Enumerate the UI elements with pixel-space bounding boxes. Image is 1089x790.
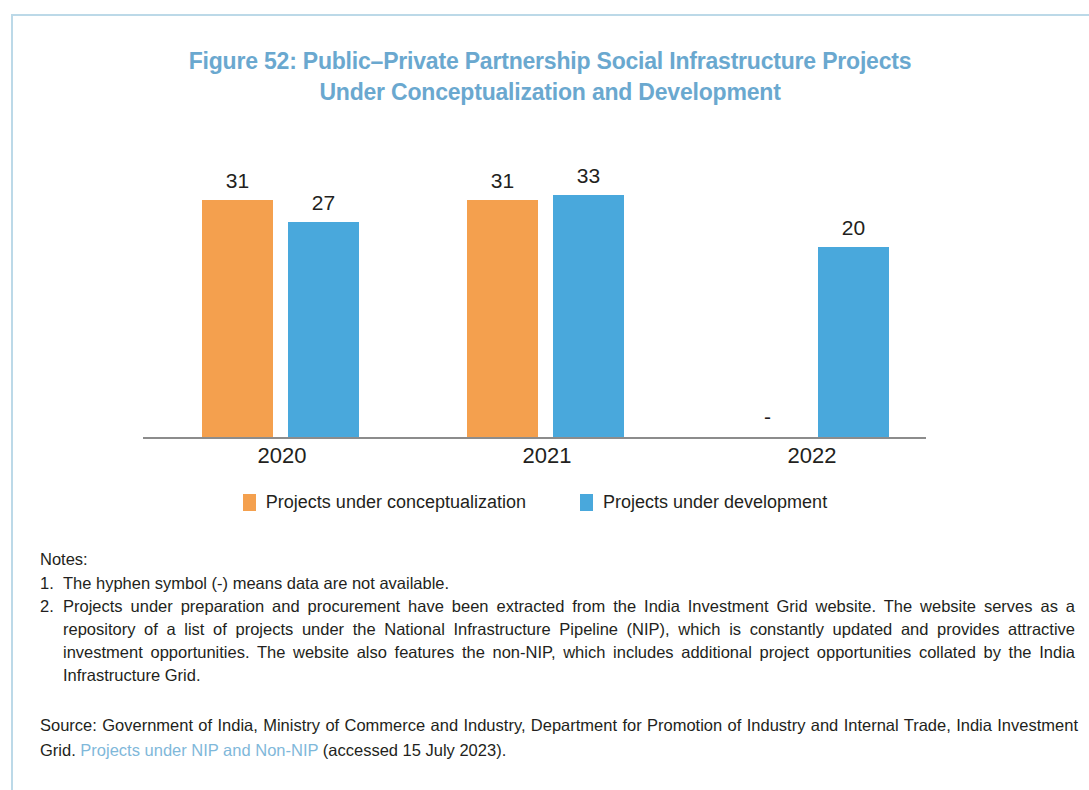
legend-swatch-blue-icon — [580, 494, 593, 511]
bar-value-2021-conceptualization: 31 — [467, 169, 538, 193]
note-item-2: 2. Projects under preparation and procur… — [40, 595, 1075, 687]
category-label-2020: 2020 — [202, 443, 362, 469]
notes-block: Notes: 1. The hyphen symbol (-) means da… — [40, 548, 1075, 687]
bar-2020-conceptualization[interactable] — [202, 200, 273, 437]
bar-value-2020-conceptualization: 31 — [202, 169, 273, 193]
bar-2021-conceptualization[interactable] — [467, 200, 538, 437]
bar-value-2022-development: 20 — [818, 216, 889, 240]
note-text-1: The hyphen symbol (-) means data are not… — [63, 572, 1075, 595]
chart-legend: Projects under conceptualization Project… — [140, 492, 930, 513]
bar-2020-development[interactable] — [288, 222, 359, 437]
bar-value-2020-development: 27 — [288, 191, 359, 215]
bar-value-2022-conceptualization-na: - — [732, 405, 803, 429]
legend-label-development: Projects under development — [603, 492, 827, 513]
source-block: Source: Government of India, Ministry of… — [40, 713, 1078, 763]
category-label-2021: 2021 — [467, 443, 627, 469]
category-label-2022: 2022 — [732, 443, 892, 469]
legend-label-conceptualization: Projects under conceptualization — [266, 492, 526, 513]
source-link[interactable]: Projects under NIP and Non-NIP — [80, 741, 318, 759]
figure-title-line-2: Under Conceptualization and Development — [11, 77, 1089, 108]
page-border-left — [11, 14, 13, 790]
figure-page: Figure 52: Public–Private Partnership So… — [0, 0, 1089, 790]
bar-2022-development[interactable] — [818, 247, 889, 437]
note-number-1: 1. — [40, 572, 63, 595]
x-axis-line — [143, 437, 926, 439]
note-number-2: 2. — [40, 595, 63, 618]
source-suffix: (accessed 15 July 2023). — [318, 741, 506, 759]
legend-item-development[interactable]: Projects under development — [580, 492, 827, 513]
bar-group-2020: 31 27 — [180, 140, 395, 437]
bar-group-2021: 31 33 — [445, 140, 660, 437]
bar-chart: 31 27 2020 31 33 2021 - 20 2022 — [140, 140, 930, 480]
bar-group-2022: - 20 — [710, 140, 925, 437]
figure-title: Figure 52: Public–Private Partnership So… — [11, 46, 1089, 108]
note-text-2: Projects under preparation and procureme… — [63, 595, 1075, 687]
legend-swatch-orange-icon — [243, 494, 256, 511]
legend-item-conceptualization[interactable]: Projects under conceptualization — [243, 492, 526, 513]
notes-heading: Notes: — [40, 548, 1075, 571]
bar-2021-development[interactable] — [553, 195, 624, 437]
figure-title-line-1: Figure 52: Public–Private Partnership So… — [189, 48, 912, 74]
bar-value-2021-development: 33 — [553, 164, 624, 188]
note-item-1: 1. The hyphen symbol (-) means data are … — [40, 572, 1075, 595]
page-border-top — [11, 14, 1089, 16]
plot-area: 31 27 2020 31 33 2021 - 20 2022 — [140, 140, 930, 437]
